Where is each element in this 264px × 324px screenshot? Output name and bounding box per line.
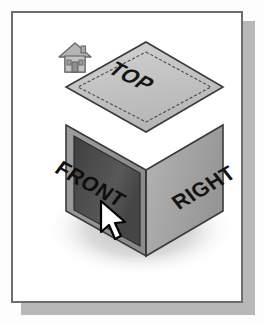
viewcube-panel: FRONT RIGHT TOP bbox=[11, 11, 243, 303]
viewcube-svg: FRONT RIGHT TOP bbox=[24, 24, 256, 316]
figure-canvas: FRONT RIGHT TOP bbox=[0, 0, 264, 324]
viewcube-face-top[interactable]: TOP bbox=[66, 42, 223, 132]
viewcube[interactable]: FRONT RIGHT TOP bbox=[24, 24, 256, 316]
